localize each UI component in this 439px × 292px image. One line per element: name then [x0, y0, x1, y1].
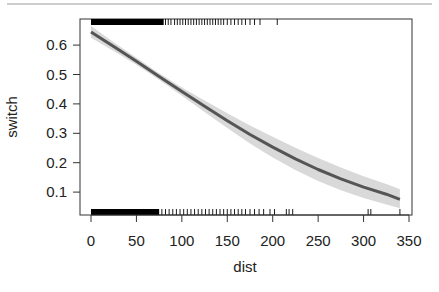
x-tick-label: 350: [396, 232, 421, 249]
y-tick-label: 0.3: [46, 124, 67, 141]
rug-top: [91, 19, 277, 25]
y-tick-label: 0.4: [46, 95, 67, 112]
y-axis: 0.10.20.30.40.50.6: [46, 36, 80, 200]
x-tick-label: 300: [351, 232, 376, 249]
x-tick-label: 150: [215, 232, 240, 249]
rug-bottom: [91, 209, 400, 215]
rug-dense: [91, 19, 164, 25]
rug-dense: [91, 209, 159, 215]
chart: 050100150200250300350 0.10.20.30.40.50.6…: [0, 0, 439, 292]
y-axis-label: switch: [3, 96, 20, 138]
confidence-band: [91, 26, 400, 208]
y-tick-label: 0.6: [46, 36, 67, 53]
x-tick-label: 200: [260, 232, 285, 249]
x-tick-label: 250: [306, 232, 331, 249]
x-tick-label: 0: [87, 232, 95, 249]
y-tick-label: 0.1: [46, 183, 67, 200]
y-tick-label: 0.5: [46, 66, 67, 83]
x-axis: 050100150200250300350: [87, 215, 422, 249]
x-tick-label: 100: [169, 232, 194, 249]
x-axis-label: dist: [233, 258, 257, 275]
x-tick-label: 50: [128, 232, 145, 249]
ci-band: [91, 26, 400, 208]
y-tick-label: 0.2: [46, 154, 67, 171]
